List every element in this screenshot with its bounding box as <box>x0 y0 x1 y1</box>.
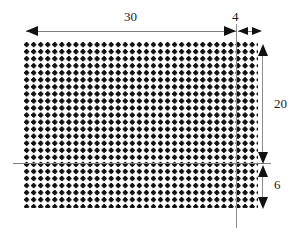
height-minor-label: 6 <box>274 178 281 191</box>
width-major-right-arrow-icon <box>224 26 236 36</box>
vertical-reference-line <box>236 24 237 228</box>
width-minor-label: 4 <box>232 10 239 23</box>
height-minor-down-arrow-icon <box>258 197 268 209</box>
width-minor-left-arrow-icon <box>238 27 248 35</box>
height-major-up-arrow-icon <box>258 44 268 56</box>
width-major-left-arrow-icon <box>26 26 38 36</box>
height-major-down-arrow-icon <box>258 152 268 164</box>
dimension-diagram: 30 4 20 6 <box>0 0 303 236</box>
dot-array <box>24 42 258 208</box>
horizontal-reference-line <box>13 163 271 164</box>
height-major-dimension-line <box>262 48 263 160</box>
width-minor-right-arrow-icon <box>252 27 262 35</box>
height-major-label: 20 <box>274 97 287 110</box>
width-major-label: 30 <box>124 10 137 23</box>
height-minor-up-arrow-icon <box>258 165 268 177</box>
width-major-dimension-line <box>26 31 236 32</box>
